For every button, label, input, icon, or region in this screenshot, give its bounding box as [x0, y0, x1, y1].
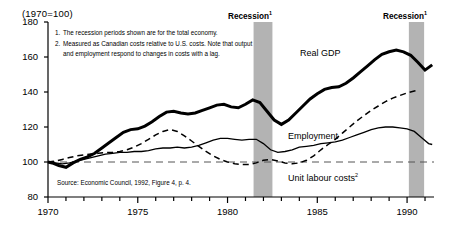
x-tick-label: 1970 — [28, 206, 68, 217]
y-tick-label: 120 — [14, 121, 38, 132]
chart-plot-area — [0, 0, 452, 227]
x-tick-label: 1990 — [387, 206, 427, 217]
recession-band-recession-1 — [254, 22, 273, 197]
series-line-unit-labour-costs — [48, 90, 418, 164]
x-tick-label: 1980 — [208, 206, 248, 217]
y-tick-label: 160 — [14, 51, 38, 62]
figure-container: (1970=100) 1. The recession periods show… — [0, 0, 452, 227]
y-tick-label: 100 — [14, 156, 38, 167]
x-tick-label: 1975 — [118, 206, 158, 217]
x-tick-label: 1985 — [297, 206, 337, 217]
y-tick-label: 180 — [14, 16, 38, 27]
y-tick-label: 80 — [14, 191, 38, 202]
y-tick-label: 140 — [14, 86, 38, 97]
recession-band-recession-2 — [409, 22, 424, 197]
